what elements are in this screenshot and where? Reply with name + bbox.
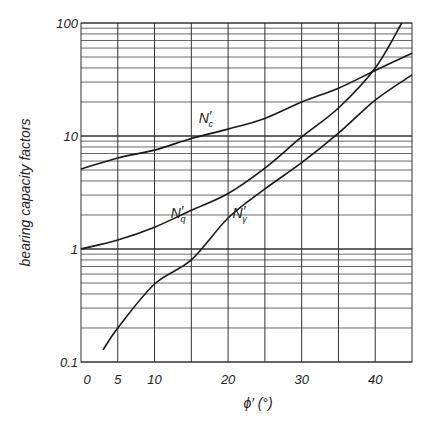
curve-labels: N′cN′qN′γ — [171, 108, 248, 223]
label-subscript: γ — [242, 214, 247, 224]
label-ngamma: N′γ — [233, 203, 248, 224]
x-axis-label: ϕ′ (°) — [243, 395, 272, 411]
label-nc: N′c — [199, 108, 214, 129]
x-tick-label: 0 — [83, 372, 91, 387]
bearing-capacity-chart: 0510203040 0.1110100 N′cN′qN′γ ϕ′ (°) be… — [0, 0, 429, 427]
y-tick-label: 0.1 — [60, 355, 78, 370]
y-tick-label: 100 — [56, 16, 78, 31]
x-tick-label: 20 — [220, 372, 236, 387]
y-tick-labels: 0.1110100 — [56, 16, 78, 370]
curves — [81, 23, 412, 350]
x-tick-label: 30 — [294, 372, 309, 387]
label-subscript: q — [180, 214, 185, 224]
x-tick-labels: 0510203040 — [83, 372, 383, 387]
curve-ngamma — [103, 75, 412, 350]
label-subscript: c — [208, 119, 213, 129]
x-tick-label: 10 — [147, 372, 162, 387]
x-tick-label: 5 — [114, 372, 122, 387]
y-axis-label: bearing capacity factors — [17, 119, 33, 267]
y-tick-label: 10 — [64, 129, 79, 144]
x-tick-label: 40 — [368, 372, 383, 387]
y-tick-label: 1 — [71, 242, 78, 257]
label-nq: N′q — [171, 203, 186, 224]
